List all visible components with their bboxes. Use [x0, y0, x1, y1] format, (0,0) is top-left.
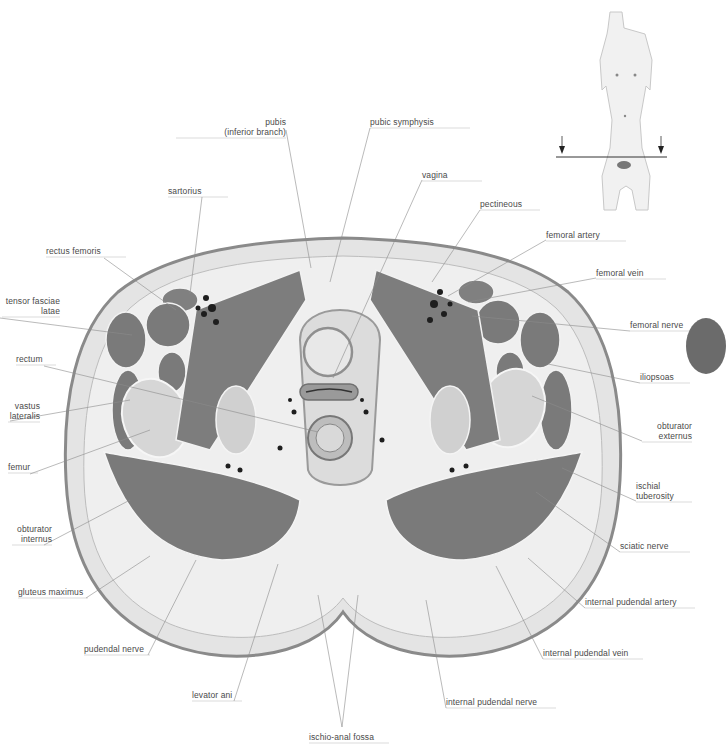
label-gluteus-maximus: gluteus maximus	[18, 587, 88, 597]
down-arrow-left-icon	[559, 136, 565, 154]
label-text: pudendal nerve	[84, 644, 150, 654]
label-tensor-fasciae-latae: tensor fasciaelatae	[2, 296, 60, 316]
label-internal-pudendal-nerve: internal pudendal nerve	[446, 697, 556, 707]
label-text: internus	[12, 534, 52, 544]
label-text: rectus femoris	[46, 246, 126, 256]
label-sartorius: sartorius	[168, 186, 228, 196]
label-internal-pudendal-vein: internal pudendal vein	[543, 648, 643, 658]
label-vastus-lateralis: vastuslateralis	[8, 401, 40, 421]
label-text: ischio-anal fossa	[309, 732, 389, 742]
label-pectineous: pectineous	[480, 199, 540, 209]
label-text: pectineous	[480, 199, 540, 209]
label-text: obturator	[642, 421, 692, 431]
label-text: internal pudendal vein	[543, 648, 643, 658]
label-text: latae	[2, 306, 60, 316]
label-ischial-tuberosity: ischialtuberosity	[636, 481, 692, 501]
label-text: femur	[8, 462, 38, 472]
label-text: obturator	[12, 524, 52, 534]
label-vagina: vagina	[422, 170, 482, 180]
orientation-figure	[556, 12, 667, 210]
label-internal-pudendal-artery: internal pudendal artery	[585, 597, 695, 607]
label-text: rectum	[16, 354, 56, 364]
label-text: internal pudendal nerve	[446, 697, 556, 707]
label-text: sciatic nerve	[620, 541, 690, 551]
label-pubis: pubis(inferior branch)	[176, 117, 286, 137]
label-text: pubis	[176, 117, 286, 127]
label-iliopsoas: iliopsoas	[640, 372, 690, 382]
label-femur: femur	[8, 462, 38, 472]
label-femoral-nerve: femoral nerve	[630, 320, 696, 330]
label-femoral-artery: femoral artery	[546, 230, 626, 240]
label-pubic-symphysis: pubic symphysis	[370, 117, 470, 127]
label-obturator-externus: obturatorexternus	[642, 421, 692, 441]
label-text: vagina	[422, 170, 482, 180]
label-rectum: rectum	[16, 354, 56, 364]
label-sciatic-nerve: sciatic nerve	[620, 541, 690, 551]
label-text: gluteus maximus	[18, 587, 88, 597]
label-pudendal-nerve: pudendal nerve	[84, 644, 150, 654]
label-text: femoral vein	[596, 268, 666, 278]
label-levator-ani: levator ani	[192, 690, 242, 700]
body-section	[65, 238, 620, 656]
label-text: tensor fasciae	[2, 296, 60, 306]
side-navigation-tab[interactable]	[686, 318, 726, 374]
label-text: internal pudendal artery	[585, 597, 695, 607]
label-text: vastus	[8, 401, 40, 411]
label-text: ischial	[636, 481, 692, 491]
label-text: (inferior branch)	[176, 127, 286, 137]
label-text: femoral nerve	[630, 320, 696, 330]
label-obturator-internus: obturatorinternus	[12, 524, 52, 544]
label-text: iliopsoas	[640, 372, 690, 382]
label-text: sartorius	[168, 186, 228, 196]
label-text: lateralis	[8, 411, 40, 421]
label-rectus-femoris: rectus femoris	[46, 246, 126, 256]
label-ischio-anal-fossa: ischio-anal fossa	[309, 732, 389, 742]
label-text: femoral artery	[546, 230, 626, 240]
label-text: levator ani	[192, 690, 242, 700]
label-femoral-vein: femoral vein	[596, 268, 666, 278]
label-text: pubic symphysis	[370, 117, 470, 127]
down-arrow-right-icon	[658, 136, 664, 154]
label-text: externus	[642, 431, 692, 441]
label-text: tuberosity	[636, 491, 692, 501]
